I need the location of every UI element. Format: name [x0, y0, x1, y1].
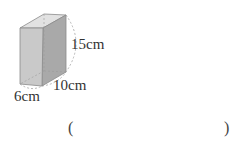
prism-svg — [0, 0, 239, 142]
depth-label: 10cm — [53, 78, 86, 93]
width-label: 6cm — [14, 89, 40, 104]
close-paren: ) — [224, 120, 229, 136]
prism-front-face — [20, 28, 43, 86]
open-paren: ( — [68, 120, 73, 136]
height-label: 15cm — [71, 37, 104, 52]
